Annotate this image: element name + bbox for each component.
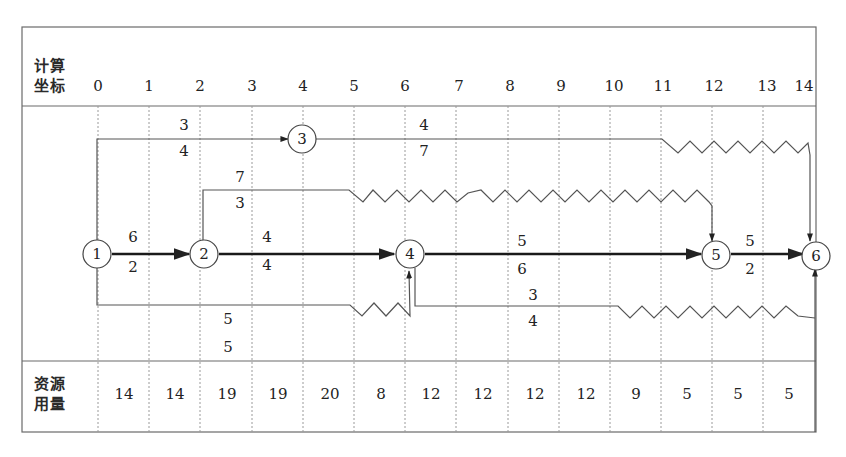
- time-axis-label-line2: 坐标: [34, 77, 66, 96]
- time-tick: 3: [237, 77, 267, 95]
- activity-2-4-top: 4: [257, 228, 277, 246]
- activity-2-5-bottom: 3: [230, 194, 250, 212]
- time-tick: 14: [789, 77, 819, 95]
- resource-value: 8: [361, 385, 401, 403]
- time-tick: 9: [546, 77, 576, 95]
- activity-3-6-bottom: 7: [414, 142, 434, 160]
- resource-value: 12: [411, 385, 451, 403]
- resource-value: 5: [769, 385, 809, 403]
- resource-value: 5: [667, 385, 707, 403]
- activity-4-6-bottom: 4: [523, 312, 543, 330]
- activity-2-5: [203, 190, 712, 242]
- node-3-label: 3: [290, 127, 314, 151]
- activity-3-6-top: 4: [414, 116, 434, 134]
- node-5-label: 5: [704, 243, 728, 267]
- time-tick: 12: [699, 77, 729, 95]
- time-axis-label-line1: 计算: [34, 57, 66, 76]
- time-tick: 0: [83, 77, 113, 95]
- resource-value: 12: [463, 385, 503, 403]
- node-6-label: 6: [804, 244, 828, 268]
- resource-label-line2: 用量: [34, 395, 66, 414]
- time-tick: 6: [390, 77, 420, 95]
- time-tick: 5: [339, 77, 369, 95]
- activity-5-6-top: 5: [740, 232, 760, 250]
- time-tick: 13: [752, 77, 782, 95]
- time-tick: 2: [185, 77, 215, 95]
- resource-value: 14: [104, 385, 144, 403]
- activity-1-2-top: 6: [123, 228, 143, 246]
- resource-value: 19: [258, 385, 298, 403]
- node-4-label: 4: [398, 242, 422, 266]
- time-tick: 11: [648, 77, 678, 95]
- activity-1-2-bottom: 2: [123, 258, 143, 276]
- activity-1-4: [97, 267, 410, 316]
- activity-2-4-bottom: 4: [257, 256, 277, 274]
- resource-value: 14: [155, 385, 195, 403]
- activity-1-3-top: 3: [174, 116, 194, 134]
- activity-1-4-top: 5: [218, 310, 238, 328]
- time-tick: 8: [495, 77, 525, 95]
- time-tick: 7: [444, 77, 474, 95]
- activity-4-5-bottom: 6: [512, 260, 532, 278]
- activity-1-3-bottom: 4: [174, 142, 194, 160]
- resource-value: 12: [566, 385, 606, 403]
- activity-5-6-bottom: 2: [740, 260, 760, 278]
- activity-2-5-top: 7: [230, 168, 250, 186]
- resource-label-line1: 资源: [34, 375, 66, 394]
- activity-3-6: [316, 139, 810, 241]
- activity-4-6: [415, 268, 815, 432]
- time-tick: 4: [288, 77, 318, 95]
- activity-4-6-top: 3: [523, 286, 543, 304]
- time-tick: 10: [599, 77, 629, 95]
- activity-1-4-bottom: 5: [218, 338, 238, 356]
- resource-value: 20: [310, 385, 350, 403]
- resource-value: 19: [207, 385, 247, 403]
- resource-value: 5: [718, 385, 758, 403]
- node-1-label: 1: [85, 242, 109, 266]
- resource-value: 9: [616, 385, 656, 403]
- time-tick: 1: [134, 77, 164, 95]
- node-2-label: 2: [192, 242, 216, 266]
- activity-4-5-top: 5: [512, 232, 532, 250]
- resource-value: 12: [515, 385, 555, 403]
